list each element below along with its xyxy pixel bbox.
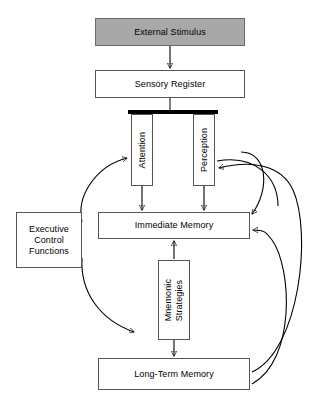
node-sensory-register: Sensory Register	[95, 70, 245, 98]
node-long-term-memory-label: Long-Term Memory	[134, 369, 214, 380]
node-external-stimulus: External Stimulus	[95, 18, 245, 46]
node-executive-control-functions: Executive Control Functions	[16, 212, 82, 268]
node-sensory-register-label: Sensory Register	[135, 79, 206, 90]
node-attention: Attention	[131, 114, 153, 186]
node-attention-label: Attention	[137, 132, 148, 168]
node-long-term-memory: Long-Term Memory	[98, 358, 250, 390]
node-mnemonic-strategies: Mnemonic Strategies	[158, 260, 190, 340]
node-immediate-memory: Immediate Memory	[98, 212, 250, 239]
edge-executive-to-mnemonic	[82, 258, 134, 332]
edge-perception-to-longterm	[217, 160, 278, 206]
edge-layer	[0, 0, 322, 404]
edge-longterm-to-immediate	[252, 230, 286, 384]
node-immediate-memory-label: Immediate Memory	[135, 220, 214, 231]
node-external-stimulus-label: External Stimulus	[134, 27, 206, 38]
memory-model-diagram: External Stimulus Sensory Register Atten…	[0, 0, 322, 404]
node-executive-control-functions-label: Executive Control Functions	[29, 224, 69, 257]
node-mnemonic-strategies-label: Mnemonic Strategies	[163, 279, 185, 321]
edge-immediate-to-longterm	[241, 152, 264, 214]
edge-longterm-to-perception	[219, 164, 302, 372]
node-perception: Perception	[193, 114, 215, 186]
node-perception-label: Perception	[199, 128, 210, 172]
